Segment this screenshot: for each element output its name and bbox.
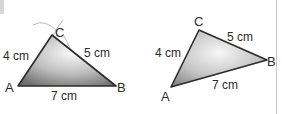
right-side-ab-label: 7 cm [212,78,238,92]
right-side-cb-label: 5 cm [227,30,253,44]
left-vertex-b: B [117,80,126,95]
right-vertex-a: A [161,89,170,104]
left-side-cb-label: 5 cm [84,46,110,60]
left-triangle-shape [18,35,116,86]
triangles-diagram: A B C 4 cm 5 cm 7 cm A B C 4 cm 5 cm 7 c… [0,0,282,114]
left-side-ac-label: 4 cm [3,49,29,63]
right-triangle: A B C 4 cm 5 cm 7 cm [155,14,276,104]
right-vertex-b: B [267,54,276,69]
right-side-ac-label: 4 cm [155,46,181,60]
left-vertex-a: A [5,80,14,95]
left-vertex-c: C [55,25,64,40]
left-side-ab-label: 7 cm [51,89,77,103]
right-vertex-c: C [194,14,203,29]
left-triangle: A B C 4 cm 5 cm 7 cm [3,20,126,103]
